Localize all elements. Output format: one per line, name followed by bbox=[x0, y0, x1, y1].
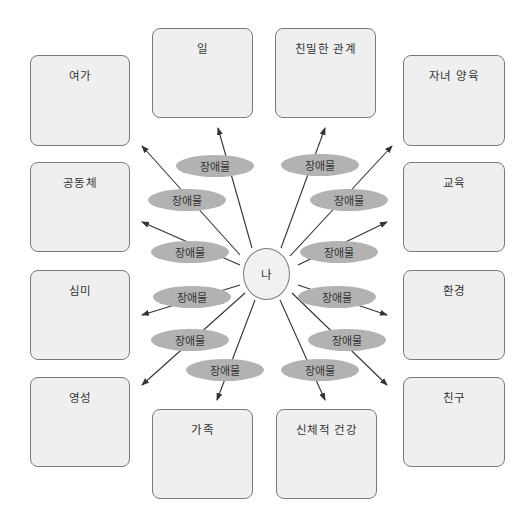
domain-label: 영성 bbox=[31, 389, 129, 405]
arrow-to-family bbox=[217, 300, 255, 400]
arrow-to-intimate-relations bbox=[281, 128, 325, 248]
domain-box-environment: 환경 bbox=[403, 270, 505, 360]
obstacle-community: 장애물 bbox=[151, 241, 229, 263]
arrow-to-physical-health bbox=[280, 300, 325, 400]
obstacle-label: 장애물 bbox=[175, 244, 206, 260]
obstacle-label: 장애물 bbox=[210, 362, 241, 378]
domain-box-work: 일 bbox=[152, 28, 253, 118]
obstacle-friends: 장애물 bbox=[308, 329, 386, 351]
domain-box-family: 가족 bbox=[152, 409, 253, 499]
domain-box-parenting: 자녀 양육 bbox=[403, 55, 505, 146]
obstacle-spirituality: 장애물 bbox=[151, 329, 229, 351]
domain-label: 자녀 양육 bbox=[404, 67, 504, 83]
obstacle-label: 장애물 bbox=[175, 332, 206, 348]
obstacle-family: 장애물 bbox=[186, 359, 264, 381]
obstacle-environment: 장애물 bbox=[298, 286, 376, 308]
obstacle-label: 장애물 bbox=[305, 157, 336, 173]
obstacle-aesthetics: 장애물 bbox=[153, 286, 231, 308]
obstacle-label: 장애물 bbox=[172, 192, 203, 208]
domain-box-intimate-relations: 친밀한 관계 bbox=[275, 28, 376, 118]
domain-box-leisure: 여가 bbox=[30, 55, 130, 146]
domain-label: 공동체 bbox=[31, 174, 129, 190]
domain-label: 심미 bbox=[31, 282, 129, 298]
domain-label: 친밀한 관계 bbox=[276, 40, 375, 56]
domain-box-friends: 친구 bbox=[403, 377, 505, 467]
obstacle-label: 장애물 bbox=[177, 289, 208, 305]
center-node-me: 나 bbox=[243, 248, 290, 300]
domain-box-education: 교육 bbox=[403, 162, 505, 252]
domain-label: 일 bbox=[153, 40, 252, 56]
domain-box-spirituality: 영성 bbox=[30, 377, 130, 467]
obstacle-label: 장애물 bbox=[305, 362, 336, 378]
obstacle-label: 장애물 bbox=[322, 289, 353, 305]
domain-box-community: 공동체 bbox=[30, 162, 130, 252]
obstacle-work: 장애물 bbox=[176, 155, 254, 177]
center-label: 나 bbox=[261, 266, 272, 282]
domain-label: 친구 bbox=[404, 389, 504, 405]
obstacle-leisure: 장애물 bbox=[148, 189, 226, 211]
obstacle-physical-health: 장애물 bbox=[281, 359, 359, 381]
domain-label: 가족 bbox=[153, 421, 252, 437]
obstacle-label: 장애물 bbox=[324, 244, 355, 260]
arrow-to-work bbox=[218, 128, 252, 248]
domain-label: 신체적 건강 bbox=[277, 421, 376, 437]
obstacle-label: 장애물 bbox=[332, 332, 363, 348]
obstacle-intimate-relations: 장애물 bbox=[281, 154, 359, 176]
obstacle-education: 장애물 bbox=[300, 241, 378, 263]
obstacle-label: 장애물 bbox=[200, 158, 231, 174]
domain-label: 교육 bbox=[404, 174, 504, 190]
domain-label: 환경 bbox=[404, 282, 504, 298]
domain-box-physical-health: 신체적 건강 bbox=[276, 409, 377, 499]
obstacle-label: 장애물 bbox=[334, 192, 365, 208]
domain-box-aesthetics: 심미 bbox=[30, 270, 130, 360]
domain-label: 여가 bbox=[31, 67, 129, 83]
obstacle-parenting: 장애물 bbox=[310, 189, 388, 211]
